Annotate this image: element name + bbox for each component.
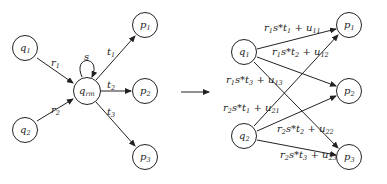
node-p2: p2 [133, 79, 158, 104]
state-elimination-diagram: r1 r2 s t1 t2 t3 q1 q2 qrm p1 p2 p3 r1s*… [0, 0, 387, 184]
node-p3: p3 [337, 145, 362, 170]
node-q2: q2 [13, 118, 38, 143]
right-graph: r1s*t1 + u11 r1s*t2 + u12 r1s*t3 + u13 r… [223, 13, 362, 170]
node-qrm: qrm [74, 78, 101, 105]
edge-qrm-p3 [96, 102, 135, 146]
edge-label-q1-p2: r1s*t2 + u12 [272, 46, 329, 59]
left-graph: r1 r2 s t1 t2 t3 q1 q2 qrm p1 p2 p3 [13, 13, 158, 170]
self-loop-qrm [80, 61, 94, 78]
edge-label-q1-p3: r1s*t3 + u13 [226, 74, 283, 87]
edge-label-r2: r2 [51, 104, 60, 117]
edge-qrm-p1 [96, 36, 135, 80]
node-q1: q1 [232, 40, 257, 65]
edge-label-q2-p1: r2s*t1 + u21 [223, 102, 280, 115]
edge-label-s: s [84, 51, 89, 62]
edge-label-q2-p2: r2s*t2 + u22 [277, 123, 334, 136]
node-p3: p3 [133, 145, 158, 170]
node-p1: p1 [133, 13, 158, 38]
edge-label-t1: t1 [107, 46, 115, 59]
node-p2: p2 [337, 79, 362, 104]
node-q2: q2 [232, 124, 257, 149]
node-q1: q1 [13, 36, 38, 61]
edge-label-q1-p1: r1s*t1 + u11 [264, 22, 321, 35]
node-p1: p1 [337, 13, 362, 38]
edge-label-t3: t3 [107, 106, 115, 119]
edge-label-t2: t2 [107, 79, 115, 92]
edge-label-q2-p3: r2s*t3 + u23 [280, 149, 337, 162]
